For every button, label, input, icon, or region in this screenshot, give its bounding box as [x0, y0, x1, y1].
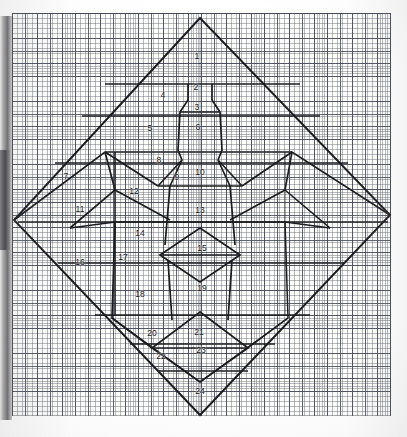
region-5-left-panel: 5 — [148, 123, 153, 133]
region-19-hips: 19 — [197, 283, 207, 293]
region-4-upper-left-panel: 4 — [161, 90, 166, 100]
region-12-left-sleeve: 12 — [129, 186, 139, 196]
region-18-left-skirt: 18 — [135, 289, 145, 299]
region-22-lower-left-hem: 22 — [156, 351, 166, 361]
scanned-sheet: 123456789101112131415161718192021222324 — [0, 0, 407, 437]
region-17-lower-left-inner: 17 — [118, 252, 128, 262]
region-3-collar: 3 — [195, 102, 200, 112]
scanner-shadow-band — [0, 16, 12, 420]
region-11-left-wing-inner: 11 — [75, 204, 84, 214]
region-10-upper-torso: 10 — [195, 167, 205, 177]
region-9-left-armpit: 9 — [175, 172, 180, 182]
region-16-lower-left-outer: 16 — [75, 257, 85, 267]
region-2-neck: 2 — [194, 82, 199, 92]
region-6-chest: 6 — [196, 122, 201, 132]
region-1-head-top: 1 — [195, 51, 200, 61]
region-20-lower-left-skirt: 20 — [147, 328, 157, 338]
region-23-lower-point: 23 — [196, 345, 206, 355]
region-15-waist: 15 — [197, 243, 207, 253]
region-21-lower-center: 21 — [194, 327, 204, 337]
region-8-left-shoulder: 8 — [157, 155, 162, 165]
region-7-left-wing-outer: 7 — [64, 171, 69, 181]
region-13-torso: 13 — [195, 205, 205, 215]
region-14-left-cuff: 14 — [135, 228, 145, 238]
scanner-shadow-band-dark — [0, 150, 10, 250]
region-24-bottom-point: 24 — [195, 386, 205, 396]
